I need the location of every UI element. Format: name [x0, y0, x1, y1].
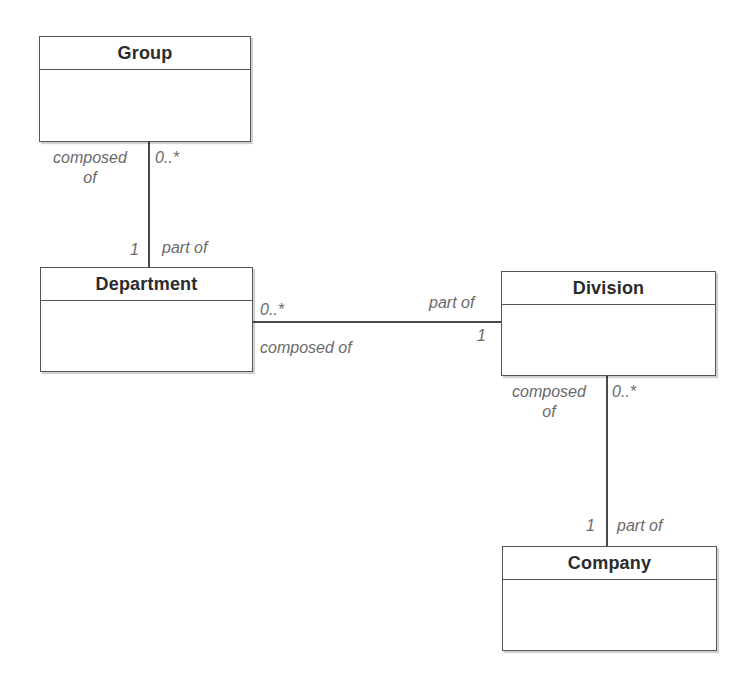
association-division-company[interactable]: [606, 375, 608, 546]
multiplicity-department-side: 0..*: [260, 300, 284, 320]
class-name-division: Division: [502, 272, 715, 305]
class-department[interactable]: Department: [40, 267, 253, 372]
class-group[interactable]: Group: [39, 36, 251, 142]
class-company[interactable]: Company: [502, 546, 717, 651]
multiplicity-department-end-1: 1: [130, 240, 139, 260]
class-division[interactable]: Division: [501, 271, 716, 376]
association-group-department[interactable]: [148, 141, 150, 267]
role-label-department-part-of: part of: [162, 238, 207, 258]
role-label-department-composed-of: composed of: [260, 338, 352, 358]
class-name-department: Department: [41, 268, 252, 301]
class-name-company: Company: [503, 547, 716, 580]
role-label-group-composed-of: composed of: [40, 148, 140, 188]
role-label-company-part-of: part of: [617, 516, 662, 536]
multiplicity-division-company-end: 0..*: [612, 382, 636, 402]
multiplicity-group-end: 0..*: [155, 148, 179, 168]
association-department-division[interactable]: [252, 321, 501, 323]
role-label-division-composed-of: composed of: [498, 382, 600, 422]
uml-diagram: Group Department Division Company compos…: [0, 0, 753, 679]
multiplicity-company-end-1: 1: [586, 516, 595, 536]
role-label-division-part-of: part of: [429, 293, 474, 313]
class-name-group: Group: [40, 37, 250, 70]
multiplicity-division-side: 1: [477, 326, 486, 346]
